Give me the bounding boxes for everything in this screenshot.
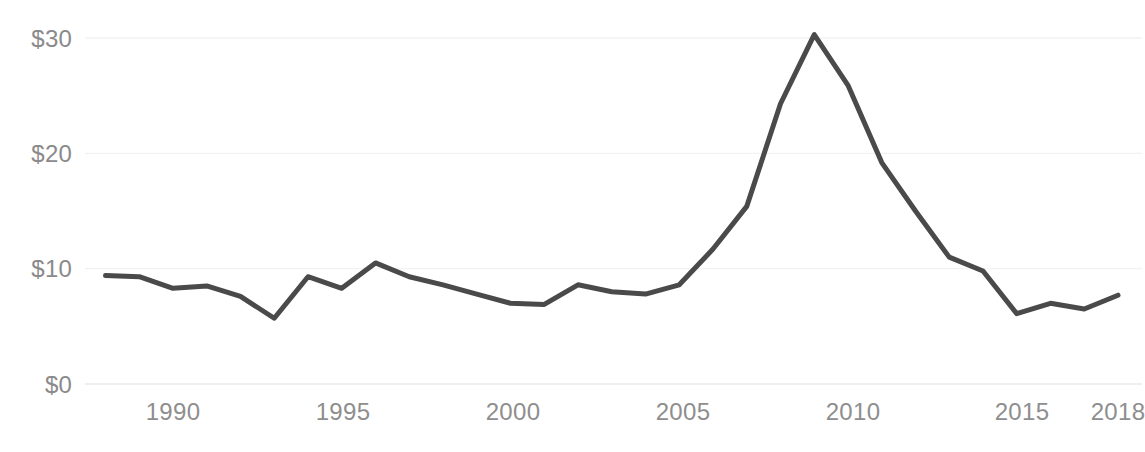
x-tick-label-2005: 2005 <box>656 400 711 424</box>
x-tick-label-2018: 2018 <box>1091 400 1145 424</box>
x-tick-label-1995: 1995 <box>316 400 371 424</box>
y-tick-label-20: $20 <box>0 142 72 166</box>
y-tick-label-30: $30 <box>0 27 72 51</box>
y-tick-label-0: $0 <box>0 373 72 397</box>
x-tick-label-2010: 2010 <box>826 400 881 424</box>
x-tick-label-1990: 1990 <box>146 400 201 424</box>
x-tick-label-2015: 2015 <box>995 400 1050 424</box>
series-line-value <box>106 35 1119 319</box>
y-tick-label-10: $10 <box>0 257 72 281</box>
x-tick-label-2000: 2000 <box>486 400 541 424</box>
gridlines-group <box>85 38 1142 269</box>
